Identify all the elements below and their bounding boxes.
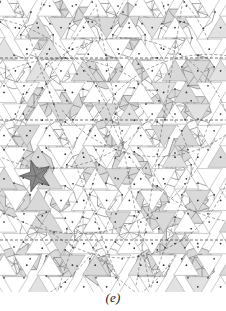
vertex-dot (190, 228, 192, 230)
vertex-dot (156, 153, 158, 155)
vertex-dot (3, 135, 5, 137)
vertex-dot (117, 178, 119, 180)
vertex-dot (22, 93, 24, 95)
vertex-dot (133, 119, 135, 121)
vertex-dot (186, 5, 188, 7)
vertex-dot (29, 194, 31, 196)
vertex-dot (26, 135, 28, 137)
vertex-dot (82, 88, 84, 90)
vertex-dot (95, 149, 97, 151)
vertex-dot (208, 48, 210, 50)
vertex-dot (83, 243, 85, 245)
vertex-dot (197, 70, 199, 72)
vertex-dot (20, 34, 22, 36)
vertex-dot (197, 200, 199, 202)
vertex-dot (140, 178, 142, 180)
vertex-dot (53, 167, 55, 169)
vertex-dot (106, 286, 108, 288)
vertex-dot (151, 70, 153, 72)
vertex-dot (140, 221, 142, 223)
vertex-dot (92, 247, 94, 249)
vertex-dot (45, 127, 47, 129)
vertex-dot (64, 153, 66, 155)
vertex-dot (75, 4, 77, 6)
vertex-dot (45, 63, 47, 65)
vertex-dot (106, 70, 108, 72)
vertex-dot (87, 21, 89, 23)
vertex-dot (30, 11, 32, 13)
vertex-dot (129, 243, 131, 245)
vertex-dot (94, 264, 96, 266)
vertex-dot (156, 89, 158, 91)
vertex-dot (105, 182, 107, 184)
vertex-dot (114, 241, 116, 243)
vertex-dot (174, 88, 176, 90)
vertex-dot (174, 27, 176, 29)
vertex-dot (181, 130, 183, 132)
figure-caption: (e) (0, 290, 226, 306)
vertex-dot (140, 264, 142, 266)
vertex-dot (60, 70, 62, 72)
vertex-dot (158, 228, 160, 230)
vertex-dot (160, 27, 162, 29)
vertex-dot (92, 183, 94, 185)
vertex-dot (168, 73, 170, 75)
vertex-dot (52, 34, 54, 36)
vertex-dot (179, 21, 181, 23)
vertex-dot (3, 85, 5, 87)
vertex-dot (220, 286, 222, 288)
vertex-dot (72, 119, 74, 121)
vertex-dot (179, 53, 181, 55)
vertex-dot (13, 246, 15, 248)
vertex-dot (22, 221, 24, 223)
vertex-dot (3, 213, 5, 215)
vertex-dot (137, 147, 139, 149)
vertex-dot (60, 27, 62, 29)
vertex-dot (117, 5, 119, 7)
vertex-dot (220, 156, 222, 158)
vertex-dot (184, 183, 186, 185)
vertex-dot (72, 5, 74, 7)
vertex-dot (45, 275, 47, 277)
vertex-dot (53, 103, 55, 105)
vertex-dot (94, 135, 96, 137)
vertex-dot (207, 149, 209, 151)
vertex-dot (214, 11, 216, 13)
vertex-dot (82, 216, 84, 218)
vertex-dot (3, 221, 5, 223)
vertex-dot (23, 277, 25, 279)
vertex-dot (121, 66, 123, 68)
vertex-dot (23, 149, 25, 151)
vertex-dot (49, 92, 51, 94)
vertex-dot (41, 215, 43, 217)
vertex-dot (115, 213, 117, 215)
vertex-dot (183, 21, 185, 23)
vertex-dot (98, 100, 100, 102)
vertex-dot (121, 258, 123, 260)
vertex-dot (64, 281, 66, 283)
vertex-dot (49, 135, 51, 137)
vertex-dot (213, 194, 215, 196)
vertex-dot (187, 85, 189, 87)
vertex-dot (129, 200, 131, 202)
vertex-dot (112, 34, 114, 36)
vertex-dot (164, 119, 166, 121)
vertex-dot (53, 231, 55, 233)
vertex-dot (64, 217, 66, 219)
vertex-dot (144, 34, 146, 36)
vertex-dot (137, 127, 139, 129)
vertex-dot (190, 164, 192, 166)
vertex-dot (22, 113, 24, 115)
vertex-dot (158, 164, 160, 166)
vertex-dot (41, 247, 43, 249)
vertex-dot (41, 119, 43, 121)
vertex-dot (23, 213, 25, 215)
vertex-dot (220, 70, 222, 72)
vertex-dot (64, 121, 66, 123)
vertex-dot (164, 247, 166, 249)
vertex-dot (49, 23, 51, 25)
vertex-dot (15, 27, 17, 29)
vertex-dot (187, 149, 189, 151)
vertex-dot (156, 57, 158, 59)
vertex-dot (115, 149, 117, 151)
